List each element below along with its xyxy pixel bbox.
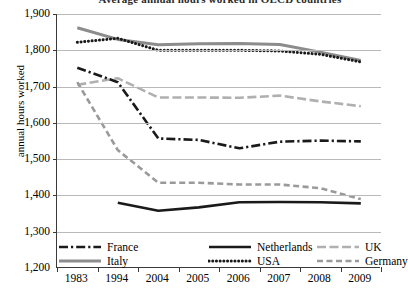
y-tick-mark — [53, 159, 57, 160]
series-lines — [57, 14, 381, 268]
legend-label: Italy — [102, 255, 128, 267]
gridline — [57, 232, 381, 233]
legend-label: Netherlands — [252, 241, 313, 253]
y-tick-label: 1,300 — [4, 226, 50, 237]
legend-item-france[interactable]: France — [58, 240, 138, 253]
legend-item-italy[interactable]: Italy — [58, 254, 128, 267]
chart-title: Average annual hours worked in OECD coun… — [70, 0, 370, 5]
y-tick-mark — [53, 50, 57, 51]
gridline — [57, 14, 381, 15]
dotted-line-icon — [208, 256, 252, 266]
gridline — [57, 195, 381, 196]
gridline — [57, 87, 381, 88]
y-tick-label: 1,800 — [4, 44, 50, 55]
y-tick-label: 1,400 — [4, 189, 50, 200]
y-tick-mark — [53, 123, 57, 124]
y-tick-mark — [53, 87, 57, 88]
y-tick-label: 1,700 — [4, 81, 50, 92]
dash-dot-line-icon — [58, 242, 102, 252]
legend-label: UK — [360, 241, 382, 253]
y-tick-label: 1,500 — [4, 153, 50, 164]
x-tick-label: 2006 — [215, 272, 261, 284]
legend-item-netherlands[interactable]: Netherlands — [208, 240, 313, 253]
y-tick-mark — [53, 195, 57, 196]
gridline — [57, 123, 381, 124]
plot-area — [56, 14, 380, 268]
series-line-netherlands — [118, 202, 361, 211]
legend-label: USA — [252, 255, 280, 267]
x-tick-label: 1994 — [94, 272, 140, 284]
y-tick-mark — [53, 14, 57, 15]
legend-item-usa[interactable]: USA — [208, 254, 280, 267]
solid-line-icon — [208, 242, 252, 252]
chart-legend: FranceNetherlandsUKItalyUSAGermany — [58, 240, 380, 268]
series-line-italy — [77, 28, 361, 61]
x-tick-label: 1983 — [53, 272, 99, 284]
gridline — [57, 159, 381, 160]
y-tick-mark — [53, 232, 57, 233]
y-tick-label: 1,200 — [4, 262, 50, 273]
gridline — [57, 50, 381, 51]
series-line-uk — [77, 78, 361, 106]
legend-item-uk[interactable]: UK — [316, 240, 382, 253]
x-tick-label: 2008 — [296, 272, 342, 284]
legend-item-germany[interactable]: Germany — [316, 254, 408, 267]
y-tick-label: 1,600 — [4, 117, 50, 128]
dashed-light-line-icon — [316, 242, 360, 252]
x-tick-label: 2007 — [256, 272, 302, 284]
legend-label: Germany — [360, 255, 408, 267]
solid-gray-line-icon — [58, 256, 102, 266]
legend-label: France — [102, 241, 138, 253]
series-line-germany — [77, 82, 361, 199]
x-tick-label: 2005 — [175, 272, 221, 284]
dashed-line-icon — [316, 256, 360, 266]
x-tick-label: 2009 — [337, 272, 383, 284]
y-tick-label: 1,900 — [4, 8, 50, 19]
x-tick-label: 2004 — [134, 272, 180, 284]
